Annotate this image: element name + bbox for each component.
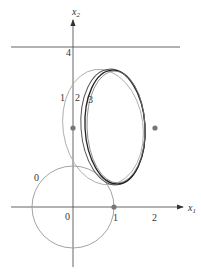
curve-label-0: 0 <box>34 172 39 183</box>
x2-axis-label: x2 <box>71 6 80 19</box>
diagram-canvas: x2 x1 4 0 1 2 0 1 2 3 <box>0 0 201 276</box>
curve-label-2: 2 <box>75 92 80 103</box>
x1-axis-label: x1 <box>187 202 196 215</box>
curve-label-3: 3 <box>88 94 93 105</box>
x-tick-2: 2 <box>152 212 157 223</box>
x-tick-0: 0 <box>65 211 70 222</box>
focus-right-dot <box>152 125 157 130</box>
y-tick-4: 4 <box>66 47 71 58</box>
curve-label-1: 1 <box>60 92 65 103</box>
focus-left-dot <box>70 125 75 130</box>
x-tick-1: 1 <box>113 212 118 223</box>
point-x1-dot <box>111 204 116 209</box>
